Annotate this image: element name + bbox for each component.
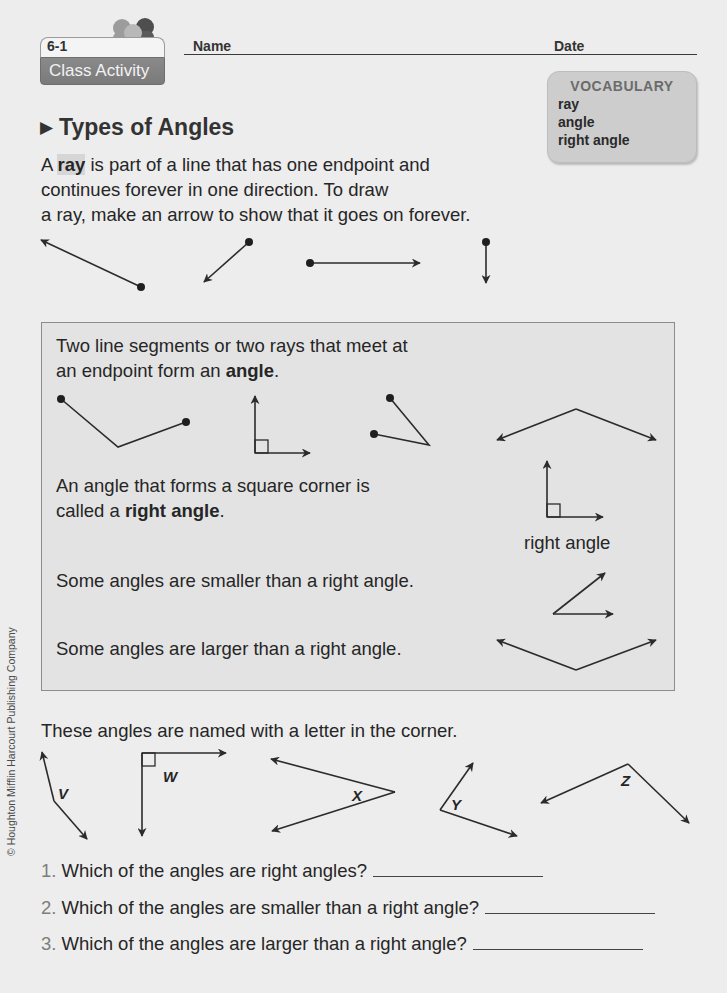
angle-v: V (42, 752, 87, 839)
angle-w: W (142, 753, 226, 836)
angle-label-z: Z (620, 772, 631, 789)
smaller-angle-figure (553, 573, 613, 614)
ray-line (497, 409, 576, 440)
angle-label-v: V (58, 785, 70, 802)
ray-line (553, 573, 605, 614)
ray-line (42, 752, 54, 801)
ray-line (271, 759, 395, 792)
angle-example-obtuse (497, 409, 656, 440)
larger-angle-figure (497, 640, 656, 670)
angle-label-y: Y (451, 796, 463, 813)
ray-line (272, 792, 395, 831)
ray-line (541, 764, 628, 803)
angle-z: Z (541, 764, 689, 823)
endpoint-dot (182, 418, 190, 426)
angle-lines (374, 398, 429, 445)
endpoint-dot (245, 238, 253, 246)
angle-example-right (255, 396, 310, 453)
angle-lines (61, 399, 186, 447)
ray-line (41, 240, 141, 287)
right-angle-mark (142, 753, 155, 766)
angle-label-w: W (163, 768, 179, 785)
ray-example-1 (41, 240, 145, 291)
endpoint-dot (306, 259, 314, 267)
ray-line (204, 242, 249, 282)
endpoint-dot (57, 395, 65, 403)
right-angle-figure (547, 461, 603, 517)
ray-example-3 (306, 259, 420, 267)
angle-x: X (271, 759, 395, 831)
angle-y: Y (440, 763, 517, 836)
ray-example-4 (482, 238, 490, 283)
ray-line (54, 801, 87, 839)
endpoint-dot (370, 430, 378, 438)
figures-layer: V W X Y Z (0, 0, 727, 993)
ray-line (576, 640, 656, 670)
angle-label-x: X (351, 787, 363, 804)
endpoint-dot (137, 283, 145, 291)
endpoint-dot (386, 394, 394, 402)
ray-line (497, 640, 576, 670)
right-angle-mark (547, 504, 560, 517)
ray-line (576, 409, 656, 440)
angle-example-acute (370, 394, 429, 445)
ray-line (440, 810, 517, 836)
angle-example-segments (57, 395, 190, 447)
endpoint-dot (482, 238, 490, 246)
ray-example-2 (204, 238, 253, 282)
right-angle-mark (255, 440, 268, 453)
ray-line (628, 764, 689, 823)
